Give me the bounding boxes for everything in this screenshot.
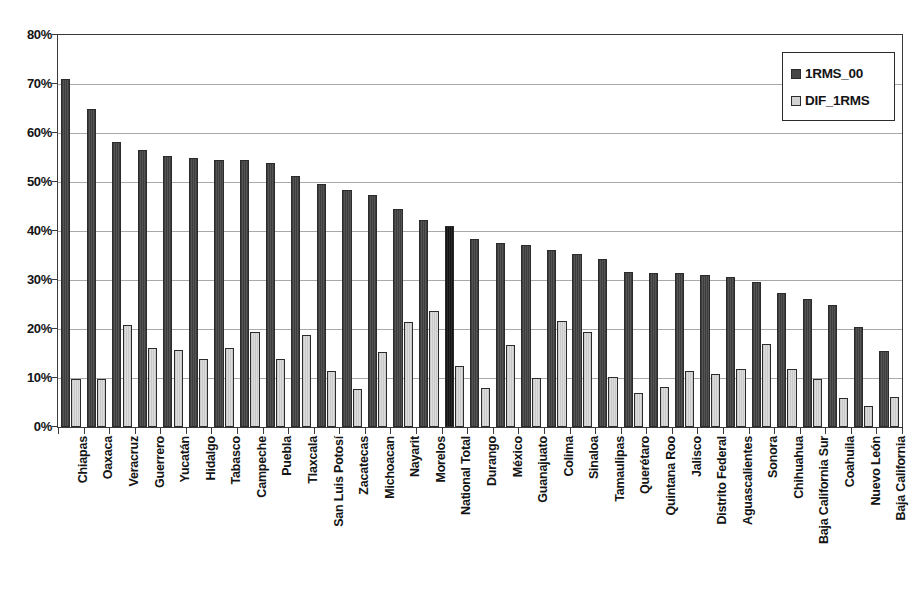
x-axis-tick-mark [365,428,366,434]
bar-group [390,35,416,427]
bar-group [58,35,84,427]
bar-dif-1rms [148,348,157,427]
bar-group [416,35,442,427]
y-axis-tick-label: 40% [4,223,52,238]
x-axis-tick-mark [314,428,315,434]
bar-group [84,35,110,427]
legend-swatch-icon [791,69,801,79]
bar-dif-1rms [813,379,822,428]
bar-1rms-00 [291,176,300,427]
bar-group [621,35,647,427]
bar-dif-1rms [557,321,566,427]
x-axis-tick-mark [186,428,187,434]
x-axis-tick-mark [902,428,903,434]
bar-1rms-00 [752,282,761,427]
bar-group [314,35,340,427]
bar-1rms-00 [112,142,121,427]
bar-1rms-00 [214,160,223,427]
bar-chart: 0%10%20%30%40%50%60%70%80% ChiapasOaxaca… [0,0,918,597]
bar-1rms-00 [266,163,275,427]
x-axis-tick-mark [723,428,724,434]
x-axis-tick-mark [416,428,417,434]
bar-1rms-00 [317,184,326,427]
legend-label: DIF_1RMS [805,93,869,108]
bar-group [263,35,289,427]
bar-dif-1rms [71,379,80,427]
bar-dif-1rms [174,350,183,427]
bar-group [544,35,570,427]
bar-group [109,35,135,427]
x-axis-tick-mark [774,428,775,434]
x-axis-tick-mark [646,428,647,434]
bar-dif-1rms [225,348,234,427]
legend-item-2[interactable]: DIF_1RMS [791,87,894,114]
x-axis-tick-mark [467,428,468,434]
legend-item-1[interactable]: 1RMS_00 [791,60,894,87]
bar-1rms-00 [598,259,607,427]
x-axis-tick-mark [390,428,391,434]
bar-1rms-00 [368,195,377,427]
bar-dif-1rms [608,377,617,427]
x-axis-tick-mark [518,428,519,434]
bar-dif-1rms [455,366,464,427]
y-axis-tick-label: 10% [4,370,52,385]
x-axis-tick-mark [697,428,698,434]
x-axis-tick-mark [109,428,110,434]
bar-group [595,35,621,427]
bar-dif-1rms [736,369,745,427]
x-axis-tick-mark [800,428,801,434]
bar-dif-1rms [685,371,694,427]
bar-1rms-00 [700,275,709,427]
y-axis-tick-label: 80% [4,27,52,42]
bar-1rms-00 [138,150,147,427]
bar-dif-1rms [199,359,208,427]
bar-1rms-00 [419,220,428,427]
bar-dif-1rms [276,359,285,427]
bar-group [442,35,468,427]
bar-dif-1rms [839,398,848,427]
bar-dif-1rms [532,378,541,427]
bar-1rms-00 [445,226,454,427]
bar-dif-1rms [378,352,387,427]
bar-1rms-00 [675,273,684,427]
bar-group [570,35,596,427]
x-axis-tick-mark [263,428,264,434]
chart-legend: 1RMS_00DIF_1RMS [782,52,895,121]
bar-group [160,35,186,427]
x-axis-tick-mark [749,428,750,434]
bar-dif-1rms [327,371,336,427]
bar-dif-1rms [97,379,106,428]
bar-group [723,35,749,427]
y-axis-tick-label: 0% [4,419,52,434]
bar-group [518,35,544,427]
bar-1rms-00 [87,109,96,428]
bar-dif-1rms [250,332,259,427]
x-axis-ticks [58,428,902,435]
x-axis-tick-mark [493,428,494,434]
bar-dif-1rms [429,311,438,427]
bar-1rms-00 [521,245,530,427]
x-axis-tick-mark [544,428,545,434]
bar-1rms-00 [777,293,786,427]
bar-group [467,35,493,427]
bar-1rms-00 [61,79,70,427]
bar-dif-1rms [660,387,669,427]
y-axis: 0%10%20%30%40%50%60%70%80% [0,34,52,428]
x-axis-tick-mark [672,428,673,434]
bar-group [672,35,698,427]
legend-label: 1RMS_00 [805,66,863,81]
x-axis-tick-mark [339,428,340,434]
bar-1rms-00 [854,327,863,427]
x-axis-tick-mark [160,428,161,434]
bar-dif-1rms [864,406,873,427]
bar-1rms-00 [163,156,172,427]
bar-1rms-00 [879,351,888,427]
bar-1rms-00 [342,190,351,427]
bar-dif-1rms [890,397,899,427]
bar-1rms-00 [828,305,837,427]
bar-group [288,35,314,427]
bar-1rms-00 [393,209,402,427]
bar-group [749,35,775,427]
bar-dif-1rms [634,393,643,427]
y-axis-tick-label: 60% [4,125,52,140]
